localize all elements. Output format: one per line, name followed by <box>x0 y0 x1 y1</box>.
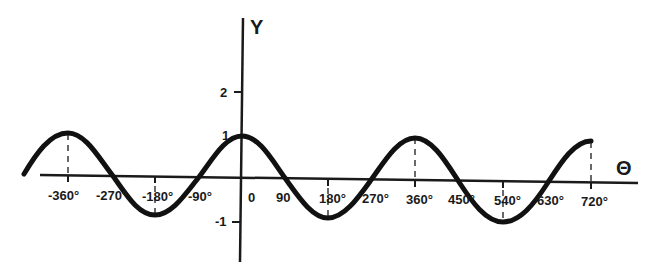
y-tick-label: 1 <box>222 128 229 143</box>
y-tick-label: -1 <box>215 214 227 229</box>
y-axis <box>240 18 243 262</box>
x-tick-label: 450° <box>448 192 475 207</box>
y-axis-label: Y <box>250 16 264 38</box>
x-tick-label: -90° <box>188 189 212 204</box>
x-tick-label: -360° <box>48 188 79 203</box>
x-tick-label: 90 <box>276 190 290 205</box>
x-tick-label: 540° <box>494 193 521 208</box>
y-tick-label: 2 <box>220 85 227 100</box>
x-axis-label: Θ <box>616 157 632 179</box>
x-tick-label: -270° <box>96 188 127 203</box>
cosine-graph: Y Θ 2 1 -1 -360° -270° -180° -90° 0 90 1… <box>0 0 657 274</box>
x-tick-label: 630° <box>537 193 564 208</box>
x-tick-label: 180° <box>319 191 346 206</box>
x-tick-label: 270° <box>362 191 389 206</box>
x-tick-label: 720° <box>581 194 608 209</box>
x-tick-label: -180° <box>142 189 173 204</box>
x-tick-label: 360° <box>406 192 433 207</box>
x-tick-label: 0 <box>248 190 255 205</box>
